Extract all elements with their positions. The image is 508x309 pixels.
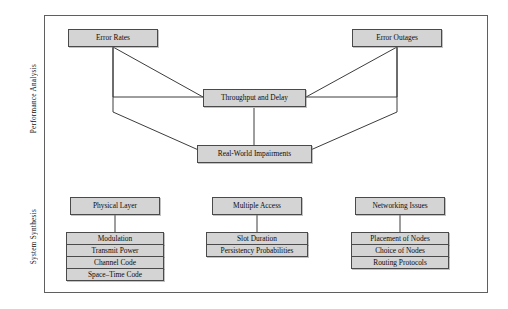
- node-physical-layer[interactable]: Physical Layer: [70, 197, 160, 215]
- list-item-label: Placement of Nodes: [370, 235, 430, 242]
- list-item[interactable]: Space–Time Code: [66, 268, 164, 281]
- list-item[interactable]: Persistency Probabilities: [206, 244, 308, 257]
- link-error-outages-to-real-world: [306, 47, 397, 152]
- list-item-label: Slot Duration: [237, 235, 277, 242]
- node-label: Multiple Access: [233, 202, 281, 209]
- link-error-rates-diagonal-upper: [113, 47, 203, 97]
- node-multiple-access[interactable]: Multiple Access: [212, 197, 302, 215]
- link-error-rates-to-real-world: [113, 47, 203, 152]
- stack-multiple-access: Slot Duration Persistency Probabilities: [206, 232, 308, 257]
- node-label: Physical Layer: [93, 202, 137, 209]
- node-label: Networking Issues: [372, 202, 427, 209]
- node-label: Error Rates: [96, 34, 130, 41]
- node-networking-issues[interactable]: Networking Issues: [355, 197, 445, 215]
- list-item-label: Choice of Nodes: [375, 247, 425, 254]
- list-item[interactable]: Routing Protocols: [351, 256, 449, 269]
- node-error-rates[interactable]: Error Rates: [68, 29, 158, 47]
- list-item-label: Space–Time Code: [88, 271, 142, 278]
- stack-networking-issues: Placement of Nodes Choice of Nodes Routi…: [351, 232, 449, 269]
- list-item-label: Modulation: [98, 235, 133, 242]
- list-item-label: Channel Code: [94, 259, 136, 266]
- node-error-outages[interactable]: Error Outages: [352, 29, 442, 47]
- node-label: Error Outages: [376, 34, 418, 41]
- node-real-world-impairments[interactable]: Real-World Impairments: [197, 145, 312, 163]
- diagram-canvas: Performance Analysis System Synthesis Er…: [0, 0, 508, 309]
- node-label: Real-World Impairments: [218, 150, 292, 157]
- node-label: Throughput and Delay: [221, 94, 288, 101]
- list-item-label: Persistency Probabilities: [221, 247, 294, 254]
- node-throughput-and-delay[interactable]: Throughput and Delay: [203, 89, 306, 107]
- stack-physical-layer: Modulation Transmit Power Channel Code S…: [66, 232, 164, 281]
- list-item-label: Transmit Power: [91, 247, 138, 254]
- link-error-outages-diagonal-upper: [306, 47, 397, 97]
- list-item-label: Routing Protocols: [373, 259, 427, 266]
